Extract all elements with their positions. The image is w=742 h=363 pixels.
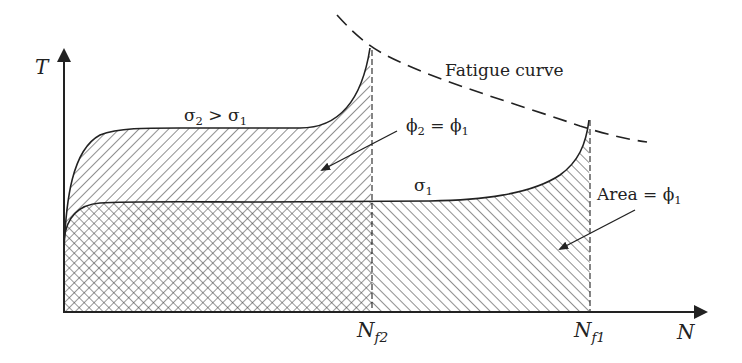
sigma1-label: σ1 [414,177,433,194]
n-axis-arrow-icon [694,305,708,319]
t-axis-arrow-icon [57,48,71,62]
t-axis-label: T [35,57,48,77]
fatigue-diagram [0,0,742,363]
sigma2-label: σ2 > σ1 [184,107,247,124]
sigma1-region-right [372,120,590,312]
area-label: Area = ϕ1 [597,186,682,203]
phi-equal-label: ϕ2 = ϕ1 [406,117,469,134]
fatigue-curve-label: Fatigue curve [445,62,564,79]
n-axis-label: N [677,322,695,342]
nf1-label: Nf1 [574,320,605,340]
overlap-crosshatch [64,202,372,312]
nf2-label: Nf2 [357,320,388,340]
